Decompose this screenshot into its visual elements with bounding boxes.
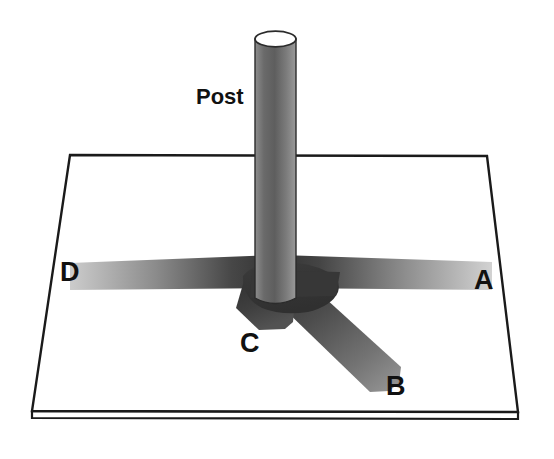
label-post: Post xyxy=(196,84,244,109)
vertical-post xyxy=(255,31,296,303)
label-c: C xyxy=(240,328,260,358)
figure-container: Post A B C D xyxy=(0,0,554,459)
label-d: D xyxy=(60,257,80,287)
label-b: B xyxy=(386,371,406,401)
label-a: A xyxy=(474,265,494,295)
post-top-cap xyxy=(255,31,296,47)
post-and-arms-diagram: Post A B C D xyxy=(0,0,554,459)
